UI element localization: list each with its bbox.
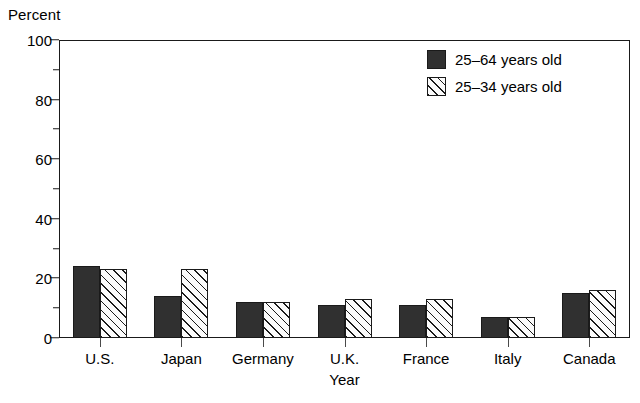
x-axis-category-label: Japan — [141, 350, 223, 367]
bar-group — [141, 40, 223, 338]
x-axis-tick — [589, 338, 590, 347]
x-axis-category-label: Italy — [467, 350, 549, 367]
bar — [399, 305, 426, 338]
chart-legend: 25–64 years old25–34 years old — [427, 50, 562, 96]
bar-group — [222, 40, 304, 338]
bar-group — [304, 40, 386, 338]
bar-group — [59, 40, 141, 338]
legend-entry: 25–34 years old — [427, 77, 562, 96]
legend-swatch-icon — [427, 77, 446, 96]
x-axis-category-label: U.K. — [304, 350, 386, 367]
x-axis-category-label: France — [385, 350, 467, 367]
x-axis-ticks — [59, 338, 630, 347]
x-axis-tick — [263, 338, 264, 347]
x-axis-category-label: Canada — [548, 350, 630, 367]
bar — [100, 269, 127, 338]
y-axis-unit-label: Percent — [8, 6, 60, 23]
bar — [589, 290, 616, 338]
bar — [562, 293, 589, 338]
y-axis-tick-label: 60 — [4, 151, 52, 168]
bar — [345, 299, 372, 338]
x-axis-category-label: U.S. — [59, 350, 141, 367]
x-axis-title: Year — [304, 371, 386, 388]
bar — [73, 266, 100, 338]
bar — [236, 302, 263, 338]
y-axis-tick-label: 40 — [4, 210, 52, 227]
x-axis-tick — [181, 338, 182, 347]
y-axis-tick-label: 0 — [4, 330, 52, 347]
legend-swatch-icon — [427, 50, 446, 69]
y-axis-tick-labels: 020406080100 — [0, 40, 52, 338]
bar — [181, 269, 208, 338]
bar — [263, 302, 290, 338]
x-axis-tick — [426, 338, 427, 347]
x-axis-tick — [345, 338, 346, 347]
x-axis-category-labels: U.S.JapanGermanyU.K.FranceItalyCanada — [59, 350, 630, 367]
x-axis-tick — [100, 338, 101, 347]
y-axis-tick-label: 20 — [4, 270, 52, 287]
bar — [481, 317, 508, 338]
legend-label: 25–64 years old — [455, 51, 562, 68]
x-axis-tick — [508, 338, 509, 347]
y-axis-tick-label: 100 — [4, 32, 52, 49]
x-axis-category-label: Germany — [222, 350, 304, 367]
bar-chart: Percent 020406080100 U.S.JapanGermanyU.K… — [0, 0, 640, 403]
bar — [426, 299, 453, 338]
bar — [318, 305, 345, 338]
y-axis-tick-label: 80 — [4, 91, 52, 108]
legend-label: 25–34 years old — [455, 78, 562, 95]
legend-entry: 25–64 years old — [427, 50, 562, 69]
bar — [508, 317, 535, 338]
bar — [154, 296, 181, 338]
